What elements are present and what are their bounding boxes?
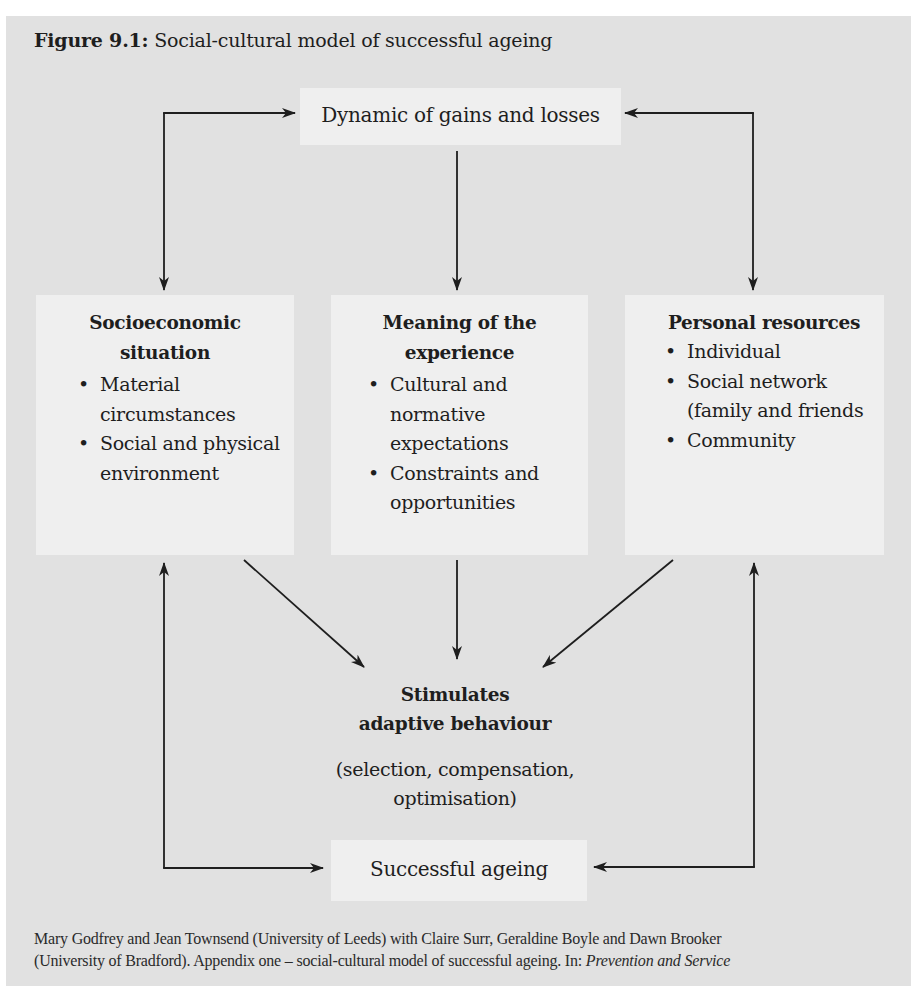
list-item: •Material circumstances [100,370,286,429]
list-item-text: Social and physical environment [100,432,280,484]
node-successful-ageing: Successful ageing [331,840,587,901]
list-item-text: Community [687,429,795,451]
heading-line: Socioeconomic [36,308,294,338]
node-successful-ageing-label: Successful ageing [331,857,587,881]
arrow-socioeconomic-to-adaptive [244,560,364,667]
node-meaning: Meaning of the experience •Cultural and … [331,295,588,555]
bullet-icon: • [368,370,379,400]
bullet-icon: • [665,426,676,456]
list-item: •Constraints and opportunities [390,459,580,518]
arrow-socioeconomic-to-top [164,113,295,114]
citation-italic-title: Prevention and Service [586,952,730,969]
node-meaning-list: •Cultural and normative expectations •Co… [331,370,588,518]
list-item: •Community [687,426,876,456]
heading-line: Stimulates [300,680,610,709]
node-gains-losses: Dynamic of gains and losses [300,88,621,145]
arrow-socioeconomic-to-ageing [164,867,323,868]
node-adaptive-heading: Stimulates adaptive behaviour [300,680,610,738]
node-socioeconomic-list: •Material circumstances •Social and phys… [36,370,294,488]
list-item-text: Social network (family and friends [687,370,863,422]
detail-line: optimisation) [300,784,610,813]
node-personal-resources: Personal resources •Individual •Social n… [625,295,884,555]
node-socioeconomic: Socioeconomic situation •Material circum… [36,295,294,555]
source-citation: Mary Godfrey and Jean Townsend (Universi… [34,928,904,972]
heading-line: situation [36,338,294,368]
bullet-icon: • [78,429,89,459]
heading-line: experience [331,338,588,368]
heading-line: Personal resources [668,308,884,338]
node-meaning-heading: Meaning of the experience [331,308,588,368]
bullet-icon: • [78,370,89,400]
node-socioeconomic-heading: Socioeconomic situation [36,308,294,368]
citation-line-1: Mary Godfrey and Jean Townsend (Universi… [34,928,904,950]
bullet-icon: • [665,367,676,397]
node-personal-resources-list: •Individual •Social network (family and … [625,337,884,455]
list-item: •Cultural and normative expectations [390,370,580,459]
citation-text: (University of Bradford). Appendix one –… [34,952,586,969]
bullet-icon: • [368,459,379,489]
node-adaptive-detail: (selection, compensation, optimisation) [300,755,610,813]
arrow-personal-to-top [625,113,753,114]
arrow-personal-to-ageing [594,866,754,867]
detail-line: (selection, compensation, [300,755,610,784]
list-item: •Social network (family and friends [687,367,876,426]
node-personal-resources-heading: Personal resources [625,308,884,338]
arrow-personal-to-adaptive [543,560,673,667]
heading-line: Meaning of the [331,308,588,338]
citation-line-2: (University of Bradford). Appendix one –… [34,950,904,972]
list-item-text: Constraints and opportunities [390,462,539,514]
list-item-text: Material circumstances [100,373,235,425]
heading-line: adaptive behaviour [300,709,610,738]
list-item-text: Individual [687,340,781,362]
bullet-icon: • [665,337,676,367]
list-item: •Individual [687,337,876,367]
node-gains-losses-label: Dynamic of gains and losses [300,103,621,127]
list-item-text: Cultural and normative expectations [390,373,509,454]
list-item: •Social and physical environment [100,429,286,488]
